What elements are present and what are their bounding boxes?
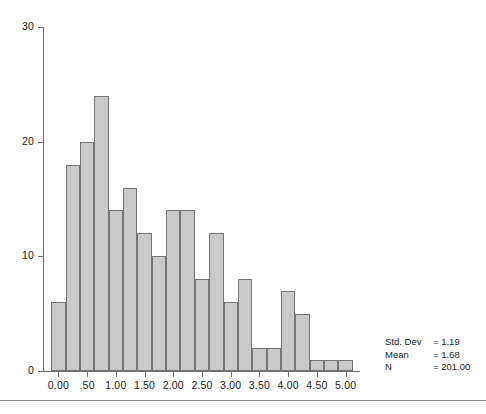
histogram-bar: [281, 291, 295, 371]
statistics-row: Mean= 1.68: [385, 349, 470, 362]
statistics-value: = 201.00: [433, 361, 470, 374]
bottom-divider: [0, 400, 486, 401]
histogram-bar: [195, 279, 209, 371]
statistics-value: = 1.19: [433, 336, 460, 349]
histogram-bar: [180, 210, 194, 371]
statistics-row: Std. Dev= 1.19: [385, 336, 470, 349]
statistics-row: N= 201.00: [385, 361, 470, 374]
histogram-bar: [94, 96, 108, 371]
histogram-bar: [310, 360, 324, 371]
statistics-label: Mean: [385, 349, 433, 362]
histogram-bar: [51, 302, 65, 371]
histogram-bar: [123, 188, 137, 371]
histogram-bar: [267, 348, 281, 371]
histogram-bar: [324, 360, 338, 371]
histogram-bar: [238, 279, 252, 371]
histogram-bar: [295, 314, 309, 371]
histogram-bar: [252, 348, 266, 371]
histogram-bar: [152, 256, 166, 371]
histogram-bar: [80, 142, 94, 371]
statistics-value: = 1.68: [433, 349, 460, 362]
histogram-bar: [209, 233, 223, 371]
histogram-bar: [166, 210, 180, 371]
statistics-label: N: [385, 361, 433, 374]
histogram-chart: 0102030 0.00.501.001.502.002.503.003.504…: [0, 0, 486, 414]
statistics-label: Std. Dev: [385, 336, 433, 349]
histogram-bar: [137, 233, 151, 371]
histogram-bar: [66, 165, 80, 371]
histogram-bar: [224, 302, 238, 371]
histogram-bar: [109, 210, 123, 371]
statistics-annotation: Std. Dev= 1.19Mean= 1.68N= 201.00: [385, 336, 470, 374]
histogram-bar: [338, 360, 352, 371]
